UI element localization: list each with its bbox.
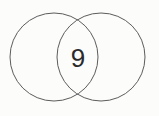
venn-diagram-figure: 9 xyxy=(0,0,159,116)
venn-intersection-label: 9 xyxy=(71,43,85,73)
venn-diagram-canvas: 9 xyxy=(0,0,159,116)
